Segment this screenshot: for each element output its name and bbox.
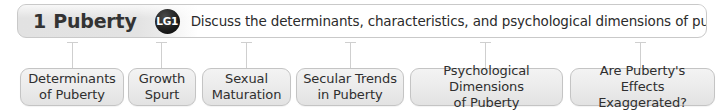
node-psychological-dimensions-of-puberty[interactable]: Psychological Dimensions of Puberty	[410, 68, 563, 106]
chapter-title: Puberty	[53, 10, 136, 32]
chapter-heading: 1 Puberty	[18, 10, 137, 32]
node-label: Growth Spurt	[139, 71, 185, 103]
node-label: Determinants of Puberty	[28, 71, 116, 103]
node-label: Psychological Dimensions of Puberty	[417, 63, 556, 111]
chapter-header-bar: 1 Puberty LG1 Discuss the determinants, …	[17, 4, 707, 38]
connector-line-2	[161, 42, 162, 69]
learning-goal-map: 1 Puberty LG1 Discuss the determinants, …	[0, 0, 727, 111]
node-label: Are Puberty's Effects Exaggerated?	[577, 63, 708, 111]
node-determinants-of-puberty[interactable]: Determinants of Puberty	[20, 68, 124, 106]
node-growth-spurt[interactable]: Growth Spurt	[128, 68, 196, 106]
connector-line-4	[350, 42, 351, 69]
node-label: Secular Trends in Puberty	[303, 71, 397, 103]
node-are-pubertys-effects-exaggerated[interactable]: Are Puberty's Effects Exaggerated?	[570, 68, 715, 106]
node-secular-trends-in-puberty[interactable]: Secular Trends in Puberty	[296, 68, 404, 106]
connector-line-3	[246, 42, 247, 69]
chapter-number: 1	[33, 10, 46, 32]
connector-line-1	[72, 42, 73, 69]
node-label: Sexual Maturation	[212, 71, 282, 103]
node-sexual-maturation[interactable]: Sexual Maturation	[202, 68, 291, 106]
learning-goal-badge: LG1	[155, 9, 180, 34]
learning-goal-description: Discuss the determinants, characteristic…	[191, 13, 707, 29]
